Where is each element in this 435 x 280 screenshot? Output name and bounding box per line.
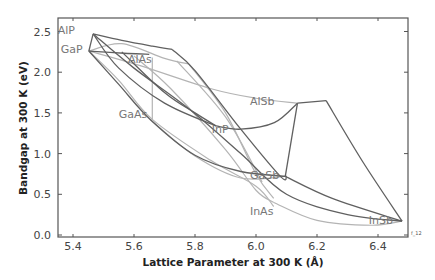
material-label-inp: InP	[212, 123, 229, 136]
y-tick-label: 0.0	[34, 229, 52, 242]
material-label-alsb: AlSb	[250, 95, 275, 108]
x-tick-label: 5.4	[64, 240, 82, 253]
material-label-insb: InSb	[369, 214, 393, 227]
x-axis-title: Lattice Parameter at 300 K (Å)	[142, 256, 323, 268]
y-tick-label: 1.5	[34, 107, 52, 120]
x-tick-label: 5.6	[125, 240, 143, 253]
material-label-alas: AlAs	[128, 53, 152, 66]
y-tick-label: 2.0	[34, 66, 52, 79]
material-label-gaas: GaAs	[119, 108, 148, 121]
figure-id-label: f_12	[411, 230, 422, 237]
x-tick-label: 6.4	[369, 240, 387, 253]
material-label-alp: AlP	[58, 24, 76, 37]
x-tick-label: 5.8	[186, 240, 204, 253]
material-label-inas: InAs	[250, 205, 274, 218]
y-tick-label: 2.5	[34, 26, 52, 39]
bandgap-lattice-chart: 5.45.65.86.06.26.4 0.00.51.01.52.02.5 Al…	[0, 0, 435, 280]
x-tick-label: 6.2	[308, 240, 326, 253]
material-label-gasb: GaSb	[250, 169, 279, 182]
y-axis-title: Bandgap at 300 K (eV)	[17, 61, 29, 195]
y-tick-label: 1.0	[34, 148, 52, 161]
x-tick-label: 6.0	[247, 240, 265, 253]
material-label-gap: GaP	[61, 43, 83, 56]
y-tick-label: 0.5	[34, 188, 52, 201]
